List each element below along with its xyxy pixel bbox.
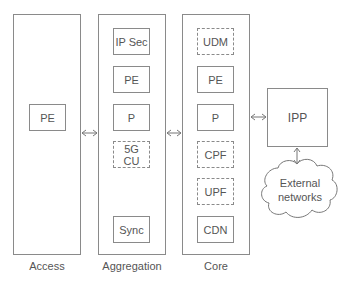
connectors xyxy=(0,0,348,283)
external-networks-label: External networks xyxy=(268,176,332,204)
bidirectional-arrow-icon xyxy=(251,114,266,120)
cloud-label-line1: External xyxy=(268,176,332,190)
bidirectional-arrow-icon xyxy=(167,130,181,136)
cloud-label-line2: networks xyxy=(268,190,332,204)
bidirectional-arrow-icon xyxy=(82,130,97,136)
